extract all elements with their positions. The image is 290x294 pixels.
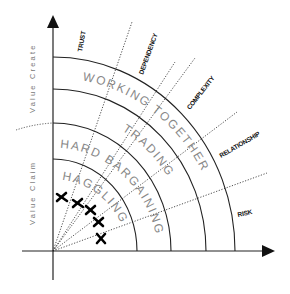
dimension-label-relationship: RELATIONSHIP (218, 130, 262, 159)
dimension-label-risk: RISK (237, 208, 253, 218)
y-axis-label-value-create: Value Create (28, 43, 37, 113)
dimension-label-complexity: COMPLEXITY (185, 74, 216, 111)
negotiation-diagram: HAGGLING HARD BARGAINING TRADING WORKING… (0, 0, 290, 294)
x-marker-icon (57, 193, 67, 201)
dimension-label-trust: TRUST (76, 30, 87, 52)
x-axis-arrow-icon (262, 245, 275, 257)
dimension-label-dependency: DEPENDENCY (137, 32, 159, 76)
dotted-boundary-arc (16, 123, 53, 130)
x-marker-icon (94, 218, 103, 226)
markers (57, 193, 105, 243)
x-marker-icon (73, 199, 83, 207)
x-marker-icon (97, 234, 105, 243)
y-axis-label-value-claim: Value Claim (28, 161, 37, 225)
diagram-svg: HAGGLING HARD BARGAINING TRADING WORKING… (0, 0, 290, 294)
x-marker-icon (86, 206, 95, 214)
y-axis-arrow-icon (47, 15, 59, 28)
